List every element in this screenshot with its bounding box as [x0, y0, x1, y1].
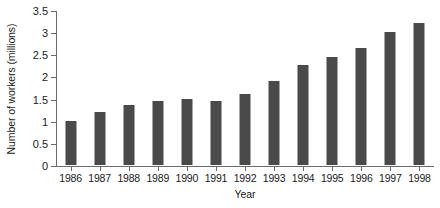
x-tick-mark	[245, 166, 246, 171]
y-tick-mark	[51, 144, 56, 145]
y-tick-mark	[51, 166, 56, 167]
plot-area: 00.511.522.533.5 19861987198819891990199…	[56, 11, 434, 166]
bar	[65, 121, 76, 165]
y-axis-tick-label: 2	[42, 71, 48, 83]
x-tick-mark	[71, 166, 72, 171]
x-tick-mark	[100, 166, 101, 171]
x-axis-tick-label: 1996	[350, 172, 373, 184]
x-tick-mark	[332, 166, 333, 171]
x-axis-tick-label: 1993	[263, 172, 286, 184]
y-tick-mark	[51, 77, 56, 78]
bar	[298, 65, 309, 165]
x-tick-mark	[216, 166, 217, 171]
y-axis-tick-label: 1	[42, 116, 48, 128]
bar	[356, 48, 367, 165]
x-axis-tick-label: 1988	[117, 172, 140, 184]
x-axis-tick-label: 1995	[321, 172, 344, 184]
bar	[240, 94, 251, 165]
x-tick-mark	[274, 166, 275, 171]
y-tick-mark	[51, 55, 56, 56]
bar	[414, 23, 425, 165]
y-tick-mark	[51, 122, 56, 123]
x-axis-tick-label: 1989	[146, 172, 169, 184]
x-axis-tick-label: 1991	[205, 172, 228, 184]
y-axis-title: Number of workers (millions)	[2, 6, 20, 172]
x-tick-mark	[361, 166, 362, 171]
y-tick-mark	[51, 100, 56, 101]
x-axis-tick-label: 1998	[408, 172, 431, 184]
bar	[327, 57, 338, 166]
x-axis-title: Year	[56, 188, 434, 200]
bar	[385, 32, 396, 165]
x-tick-mark	[390, 166, 391, 171]
x-axis-tick-label: 1992	[234, 172, 257, 184]
x-tick-mark	[419, 166, 420, 171]
bar	[269, 81, 280, 165]
bar	[94, 112, 105, 165]
x-tick-mark	[187, 166, 188, 171]
x-axis-tick-label: 1987	[88, 172, 111, 184]
bar	[123, 105, 134, 165]
y-axis-tick-label: 3.5	[33, 5, 48, 17]
bar	[210, 101, 221, 165]
y-axis-tick-label: 3	[42, 27, 48, 39]
x-axis-tick-label: 1994	[292, 172, 315, 184]
y-axis-line	[56, 11, 57, 167]
x-axis-tick-label: 1990	[176, 172, 199, 184]
x-tick-mark	[303, 166, 304, 171]
x-axis-tick-label: 1986	[59, 172, 82, 184]
x-axis-tick-label: 1997	[379, 172, 402, 184]
bar	[152, 101, 163, 165]
x-tick-mark	[158, 166, 159, 171]
bar-chart-figure: Number of workers (millions) 00.511.522.…	[0, 0, 440, 208]
y-axis-tick-label: 2.5	[33, 49, 48, 61]
y-axis-tick-label: 0	[42, 160, 48, 172]
bar	[181, 99, 192, 165]
y-tick-mark	[51, 11, 56, 12]
y-tick-mark	[51, 33, 56, 34]
x-tick-mark	[129, 166, 130, 171]
y-axis-tick-label: 1.5	[33, 94, 48, 106]
y-axis-tick-label: 0.5	[33, 138, 48, 150]
